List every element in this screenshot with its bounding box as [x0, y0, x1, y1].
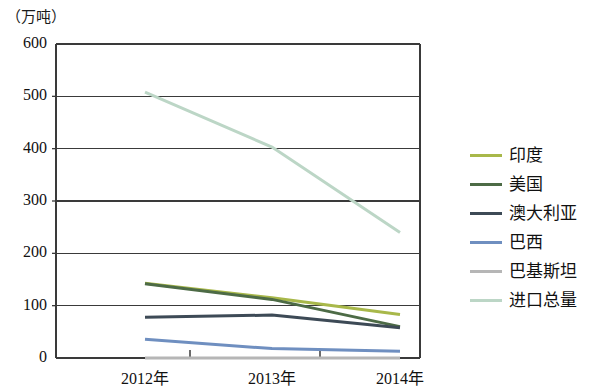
legend-item-label: 巴西 — [509, 234, 543, 251]
legend-item: 巴西 — [470, 228, 591, 257]
legend-color-swatch — [470, 241, 502, 244]
legend-color-swatch — [470, 183, 502, 186]
y-axis-tick-label: 600 — [3, 34, 47, 52]
x-axis-tick-label: 2013年 — [224, 365, 320, 388]
y-axis-tick-label: 0 — [3, 348, 47, 366]
legend-color-swatch — [470, 299, 502, 302]
y-axis-tick-label: 500 — [3, 86, 47, 104]
legend-item-label: 进口总量 — [509, 292, 577, 309]
legend-item: 进口总量 — [470, 286, 591, 315]
legend-item-label: 澳大利亚 — [509, 205, 577, 222]
legend-item: 巴基斯坦 — [470, 257, 591, 286]
y-axis-tick-label: 300 — [3, 191, 47, 209]
x-axis-tick-label: 2014年 — [352, 365, 448, 388]
legend-item-label: 印度 — [509, 147, 543, 164]
series-line — [145, 92, 400, 232]
legend-color-swatch — [470, 270, 502, 273]
legend-item: 澳大利亚 — [470, 199, 591, 228]
y-axis-tick-label: 100 — [3, 296, 47, 314]
legend-color-swatch — [470, 154, 502, 157]
legend-color-swatch — [470, 212, 502, 215]
x-axis-tick-label: 2012年 — [97, 365, 193, 388]
legend-item: 印度 — [470, 141, 591, 170]
y-axis-tick-label: 200 — [3, 243, 47, 261]
legend-item-label: 美国 — [509, 176, 543, 193]
line-chart: （万吨） 0100200300400500600 2012年2013年2014年… — [0, 0, 591, 388]
legend-item: 美国 — [470, 170, 591, 199]
series-lines — [145, 92, 400, 358]
x-axis-ticks — [52, 96, 320, 358]
legend: 印度美国澳大利亚巴西巴基斯坦进口总量 — [470, 141, 591, 315]
series-line — [145, 339, 400, 351]
y-axis-tick-label: 400 — [3, 139, 47, 157]
legend-item-label: 巴基斯坦 — [509, 263, 577, 280]
